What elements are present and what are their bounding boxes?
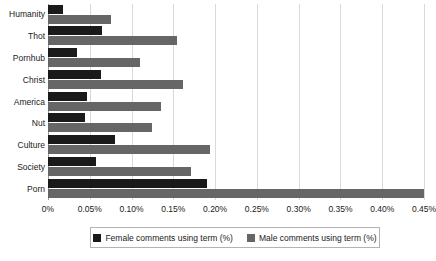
bar-group <box>48 70 424 92</box>
bar-group <box>48 26 424 48</box>
x-axis-tick-label: 0.05% <box>78 203 102 215</box>
chart-legend: Female comments using term (%) Male comm… <box>90 227 380 248</box>
bar-group <box>48 179 424 201</box>
x-axis-tick-label: 0.20% <box>203 203 227 215</box>
legend-entry-female[interactable]: Female comments using term (%) <box>93 233 233 243</box>
bar-female <box>48 5 63 14</box>
y-axis-tick-label: Porn <box>27 184 45 194</box>
bar-female <box>48 48 77 57</box>
bar-male <box>48 58 140 67</box>
y-axis-labels: HumanityThotPornhubChristAmericaNutCultu… <box>0 4 45 200</box>
y-axis-tick-label: Humanity <box>9 9 45 19</box>
bar-female <box>48 26 102 35</box>
bar-group <box>48 48 424 70</box>
x-axis-tick-label: 0.35% <box>328 203 352 215</box>
x-axis-tick-label: 0.25% <box>245 203 269 215</box>
x-axis-tick-label: 0.45% <box>412 203 436 215</box>
bars-layer <box>48 4 424 200</box>
bar-male <box>48 145 210 154</box>
bar-group <box>48 135 424 157</box>
bar-group <box>48 113 424 135</box>
bar-male <box>48 189 424 198</box>
y-axis-tick-label: Nut <box>32 118 45 128</box>
x-axis-tick-label: 0% <box>42 203 54 215</box>
bar-female <box>48 135 115 144</box>
y-axis-tick-label: Christ <box>23 75 45 85</box>
bar-male <box>48 123 152 132</box>
bar-male <box>48 36 177 45</box>
plot-area <box>48 4 424 200</box>
gridline <box>424 4 425 200</box>
bar-male <box>48 102 161 111</box>
x-axis-labels: 0%0.05%0.10%0.15%0.20%0.25%0.30%0.35%0.4… <box>0 203 436 217</box>
x-axis-tick-label: 0.40% <box>370 203 394 215</box>
y-axis-tick-label: Society <box>17 162 45 172</box>
bar-female <box>48 92 87 101</box>
legend-entry-male[interactable]: Male comments using term (%) <box>247 233 377 243</box>
bar-group <box>48 5 424 27</box>
legend-swatch-male-icon <box>247 234 255 242</box>
x-axis-tick-label: 0.30% <box>287 203 311 215</box>
bar-female <box>48 113 85 122</box>
bar-male <box>48 15 111 24</box>
y-axis-tick-label: America <box>14 97 45 107</box>
bar-group <box>48 157 424 179</box>
bar-female <box>48 70 101 79</box>
bar-male <box>48 80 183 89</box>
legend-swatch-female-icon <box>93 234 101 242</box>
legend-label-male: Male comments using term (%) <box>259 233 377 243</box>
legend-label-female: Female comments using term (%) <box>105 233 233 243</box>
y-axis-tick-label: Thot <box>28 31 45 41</box>
bar-group <box>48 92 424 114</box>
x-axis-tick-label: 0.10% <box>119 203 143 215</box>
bar-male <box>48 167 191 176</box>
y-axis-tick-label: Pornhub <box>13 53 45 63</box>
y-axis-tick-label: Culture <box>18 140 45 150</box>
bar-chart: HumanityThotPornhubChristAmericaNutCultu… <box>0 0 436 261</box>
bar-female <box>48 157 96 166</box>
x-axis-tick-label: 0.15% <box>161 203 185 215</box>
bar-female <box>48 179 207 188</box>
